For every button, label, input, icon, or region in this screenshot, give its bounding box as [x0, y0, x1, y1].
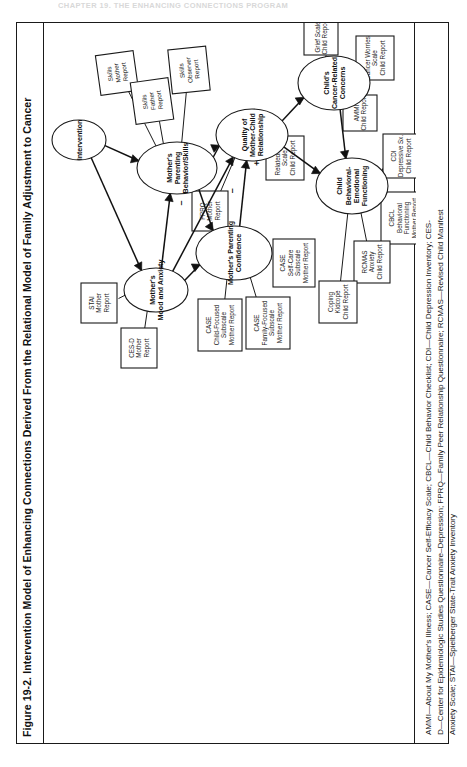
- svg-text:CASE: CASE: [279, 254, 286, 271]
- svg-text:AMMI: AMMI: [353, 105, 360, 122]
- svg-text:Mother Report: Mother Report: [228, 305, 236, 345]
- svg-text:Mother Report: Mother Report: [302, 243, 310, 283]
- svg-text:Mother Report: Mother Report: [276, 303, 284, 343]
- svg-text:Child Report: Child Report: [405, 138, 413, 173]
- diagram-svg: SkillsMotherReportSkillsFatherReportSkil…: [44, 23, 416, 743]
- svg-text:Behavioral-: Behavioral-: [345, 166, 353, 205]
- svg-text:Functioning: Functioning: [361, 166, 369, 207]
- svg-text:CASE: CASE: [205, 316, 212, 333]
- svg-text:Child Report: Child Report: [376, 244, 384, 279]
- svg-text:Child's: Child's: [323, 71, 331, 94]
- svg-text:Mother's: Mother's: [166, 153, 174, 182]
- svg-text:Subscale: Subscale: [220, 312, 227, 338]
- legend-line-3: Anxiety Scale; STAI—Spielberger State-Tr…: [448, 29, 457, 735]
- svg-text:Behavior/Skills: Behavior/Skills: [182, 143, 190, 194]
- svg-text:CDI: CDI: [390, 150, 397, 161]
- svg-text:Mother Report: Mother Report: [411, 198, 417, 238]
- svg-text:Child Report: Child Report: [342, 284, 350, 319]
- svg-text:Child: Child: [336, 177, 344, 195]
- svg-text:Report: Report: [143, 338, 151, 357]
- svg-text:Emotional: Emotional: [353, 169, 361, 203]
- svg-text:Child Report: Child Report: [379, 40, 387, 75]
- figure-frame: Figure 19-2. Intervention Model of Enhan…: [16, 22, 449, 744]
- figure-legend: AMMI—About My Mother's Illness; CASE—Can…: [415, 23, 448, 745]
- svg-text:Intervention: Intervention: [76, 120, 84, 161]
- svg-text:Concerns: Concerns: [339, 67, 347, 100]
- svg-text:Child-Focused: Child-Focused: [213, 304, 220, 345]
- svg-text:Report: Report: [214, 201, 222, 220]
- svg-text:Grief Scale: Grief Scale: [314, 23, 321, 53]
- svg-text:RCMAS: RCMAS: [361, 251, 368, 274]
- svg-text:Report: Report: [103, 293, 111, 312]
- svg-text:Subscale: Subscale: [268, 310, 275, 336]
- svg-text:STAI: STAI: [88, 296, 95, 310]
- svg-text:Behavioral: Behavioral: [396, 203, 403, 233]
- svg-text:CES-D: CES-D: [128, 338, 135, 358]
- svg-text:Cancer-Related: Cancer-Related: [331, 57, 339, 109]
- diagram-canvas: SkillsMotherReportSkillsFatherReportSkil…: [44, 23, 414, 743]
- figure-title: Figure 19-2. Intervention Model of Enhan…: [21, 25, 33, 737]
- svg-text:Mother's Parenting: Mother's Parenting: [227, 221, 235, 285]
- svg-text:Child Report: Child Report: [289, 140, 297, 175]
- svg-text:–: –: [227, 188, 237, 193]
- running-head: CHAPTER 19. THE ENHANCING CONNECTIONS PR…: [58, 1, 318, 10]
- svg-text:–: –: [176, 201, 186, 206]
- svg-text:Scale: Scale: [281, 150, 288, 166]
- legend-line-2: D—Center for Epidemiologic Studies Quest…: [436, 29, 445, 735]
- svg-text:Subscale: Subscale: [294, 250, 301, 276]
- svg-text:CASE: CASE: [253, 314, 260, 331]
- svg-text:Confidence: Confidence: [235, 234, 243, 273]
- legend-line-1: AMMI—About My Mother's Illness; CASE—Can…: [424, 29, 433, 735]
- svg-text:Mother: Mother: [135, 338, 142, 358]
- svg-text:Child Report: Child Report: [321, 23, 329, 55]
- svg-text:Parenting: Parenting: [174, 152, 182, 185]
- svg-text:Quality of: Quality of: [241, 118, 249, 151]
- svg-text:Self-Care: Self-Care: [287, 249, 294, 276]
- figure-page: CHAPTER 19. THE ENHANCING CONNECTIONS PR…: [0, 0, 467, 767]
- svg-text:Mother-Child: Mother-Child: [249, 113, 257, 157]
- svg-text:Mother's: Mother's: [149, 275, 157, 304]
- svg-text:Mood and Anxiety: Mood and Anxiety: [157, 260, 165, 321]
- svg-text:CBCL: CBCL: [388, 209, 395, 226]
- svg-text:Relationship: Relationship: [257, 113, 265, 156]
- svg-text:Scale: Scale: [371, 50, 378, 66]
- svg-text:Mother: Mother: [95, 293, 102, 313]
